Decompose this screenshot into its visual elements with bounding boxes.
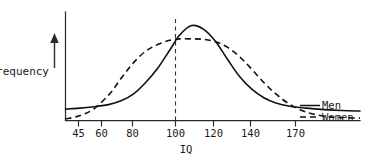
legend-label-women: Women: [322, 111, 354, 123]
x-tick-label-2: 80: [126, 127, 139, 139]
series-line-men: [66, 25, 361, 111]
x-tick-label-4: 120: [204, 127, 223, 139]
legend-label-men: Men: [322, 99, 341, 111]
iq-distribution-chart: Frequency 45 60 80 100 120 140 170 IQ: [0, 0, 369, 162]
chart-svg: Frequency 45 60 80 100 120 140 170 IQ: [0, 0, 369, 162]
x-tick-label-0: 45: [72, 127, 85, 139]
x-tick-label-5: 140: [241, 127, 260, 139]
x-axis-ticks: [79, 121, 296, 127]
x-tick-label-1: 60: [95, 127, 108, 139]
x-axis-title: IQ: [180, 143, 193, 155]
frequency-arrow-icon: [50, 33, 58, 68]
series-line-women: [66, 39, 361, 119]
x-tick-label-3: 100: [166, 127, 185, 139]
y-axis-title: Frequency: [0, 65, 49, 78]
x-tick-label-6: 170: [286, 127, 305, 139]
